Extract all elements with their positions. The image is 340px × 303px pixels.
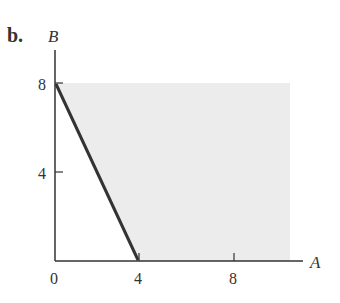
chart: b. B A 8 4 0 4 8: [0, 0, 340, 303]
x-tick-label-4: 4: [134, 270, 142, 287]
y-tick-label-4: 4: [38, 165, 46, 182]
x-tick-label-0: 0: [50, 270, 58, 287]
panel-label: b.: [7, 24, 23, 46]
y-tick-label-8: 8: [38, 76, 46, 93]
x-tick-label-8: 8: [229, 270, 237, 287]
x-axis-label: A: [309, 253, 321, 272]
shaded-region: [55, 83, 290, 261]
y-axis-label: B: [48, 27, 59, 46]
